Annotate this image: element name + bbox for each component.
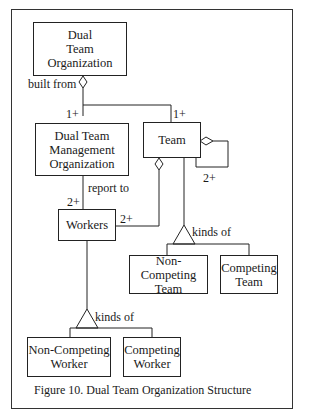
node-label: Dual Team <box>49 129 114 143</box>
node-label: Workers <box>66 218 108 232</box>
node-label: Competing <box>124 343 180 357</box>
node-dual-team-organization: Dual Team Organization <box>33 22 127 76</box>
node-label: Worker <box>124 357 180 371</box>
node-label: Organization <box>49 157 114 171</box>
node-dual-team-management-organization: Dual Team Management Organization <box>35 123 129 176</box>
multiplicity-workers-team: 2+ <box>120 213 133 226</box>
node-label: Team <box>47 42 112 56</box>
edge-label-team-kinds-of: kinds of <box>192 226 231 239</box>
multiplicity-team-self: 2+ <box>203 172 216 185</box>
node-non-competing-worker: Non-Competing Worker <box>27 337 111 377</box>
multiplicity-workers-report: 2+ <box>67 196 80 209</box>
node-competing-team: Competing Team <box>220 255 278 294</box>
node-label: Organization <box>47 56 112 70</box>
edge-label-report-to: report to <box>88 182 129 195</box>
node-label: Team <box>130 282 207 296</box>
node-workers: Workers <box>58 209 116 241</box>
node-team: Team <box>143 122 201 158</box>
aggregation-diamond-icon <box>200 137 213 145</box>
aggregation-diamond-icon <box>79 76 87 88</box>
edge-label-worker-kinds-of: kinds of <box>95 311 134 324</box>
node-label: Worker <box>28 357 109 371</box>
node-non-competing-team: Non-Competing Team <box>129 255 208 294</box>
multiplicity-team: 1+ <box>173 108 186 121</box>
aggregation-diamond-icon <box>155 158 163 170</box>
figure-caption: Figure 10. Dual Team Organization Struct… <box>34 383 251 398</box>
node-competing-worker: Competing Worker <box>123 337 181 377</box>
node-label: Competing <box>221 261 277 275</box>
node-label: Team <box>221 275 277 289</box>
node-label: Non-Competing <box>28 343 109 357</box>
edge-label-built-from: built from <box>28 78 76 91</box>
node-label: Dual <box>47 28 112 42</box>
node-label: Team <box>158 133 186 147</box>
node-label: Management <box>49 143 114 157</box>
multiplicity-mgmt: 1+ <box>66 108 79 121</box>
node-label: Non-Competing <box>130 254 207 282</box>
